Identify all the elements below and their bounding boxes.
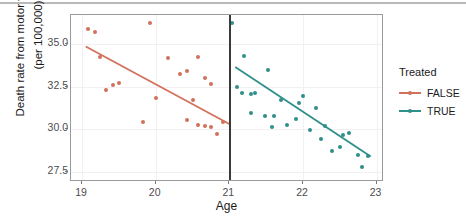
x-axis-ticks: 1920212223: [0, 0, 466, 219]
chart-figure: Death rate from motor vehicle fatalities…: [0, 0, 466, 219]
legend-title: Treated: [399, 66, 466, 78]
legend-swatch-icon: [399, 105, 421, 117]
x-tick-label: 19: [66, 186, 96, 198]
legend-label: TRUE: [427, 105, 456, 117]
x-axis-label: Age: [70, 199, 383, 213]
x-tick-label: 22: [287, 186, 317, 198]
x-tick-mark: [155, 181, 156, 184]
legend-label: FALSE: [427, 87, 460, 99]
legend-entries: FALSETRUE: [399, 85, 466, 118]
x-tick-mark: [302, 181, 303, 184]
legend-item-true[interactable]: TRUE: [399, 103, 466, 118]
legend: Treated FALSETRUE: [399, 66, 466, 121]
x-tick-mark: [81, 181, 82, 184]
x-tick-label: 23: [361, 186, 391, 198]
x-tick-label: 20: [140, 186, 170, 198]
legend-item-false[interactable]: FALSE: [399, 85, 466, 100]
x-tick-mark: [376, 181, 377, 184]
x-tick-mark: [228, 181, 229, 184]
legend-swatch-icon: [399, 87, 421, 99]
x-tick-label: 21: [213, 186, 243, 198]
